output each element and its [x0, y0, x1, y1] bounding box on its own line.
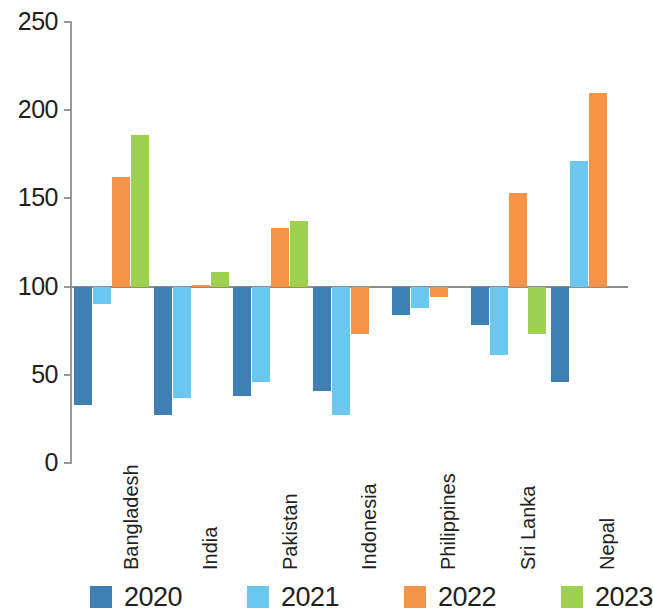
- bar: [173, 287, 191, 398]
- legend-label: 2021: [281, 584, 339, 611]
- bar: [313, 287, 331, 391]
- bar: [332, 287, 350, 416]
- bar: [411, 287, 429, 308]
- x-tick-label: Sri Lanka: [518, 486, 538, 571]
- bar: [290, 221, 308, 286]
- bar: [93, 287, 111, 305]
- bar: [490, 287, 508, 356]
- bar: [589, 93, 607, 287]
- bar: [131, 135, 149, 287]
- y-tick-label: 50: [0, 362, 58, 387]
- legend-item[interactable]: 2020: [90, 583, 182, 611]
- bar: [430, 287, 448, 298]
- y-tick-label: 150: [0, 185, 58, 210]
- bar: [112, 177, 130, 286]
- chart-legend: 2020202120222023: [90, 583, 630, 611]
- y-tick-label: 250: [0, 9, 58, 34]
- bar: [74, 287, 92, 405]
- bar: [392, 287, 410, 315]
- bar: [471, 287, 489, 326]
- y-tick-label: 200: [0, 97, 58, 122]
- bar: [570, 161, 588, 286]
- x-tick-label: Nepal: [597, 518, 617, 570]
- bar: [233, 287, 251, 396]
- x-tick-label: Indonesia: [359, 483, 379, 570]
- y-tick-label: 0: [0, 450, 58, 475]
- legend-item[interactable]: 2021: [247, 583, 339, 611]
- bar: [271, 228, 289, 286]
- bar: [192, 285, 210, 287]
- bar: [252, 287, 270, 382]
- bar: [211, 272, 229, 286]
- x-tick-label: Bangladesh: [121, 464, 141, 570]
- legend-item[interactable]: 2022: [404, 583, 496, 611]
- legend-label: 2023: [595, 584, 653, 611]
- y-tick-label: 100: [0, 274, 58, 299]
- x-tick-label: India: [200, 527, 220, 570]
- bar: [509, 193, 527, 286]
- bar: [528, 287, 546, 335]
- legend-item[interactable]: 2023: [561, 583, 653, 611]
- legend-swatch-icon: [404, 586, 426, 608]
- x-tick-label: Pakistan: [280, 493, 300, 570]
- legend-label: 2022: [438, 584, 496, 611]
- x-tick-label: Philippines: [438, 473, 458, 570]
- bar: [154, 287, 172, 416]
- bar: [351, 287, 369, 335]
- legend-swatch-icon: [247, 586, 269, 608]
- plot-area: [72, 22, 628, 463]
- bar: [551, 287, 569, 382]
- legend-swatch-icon: [90, 586, 112, 608]
- legend-label: 2020: [124, 584, 182, 611]
- legend-swatch-icon: [561, 586, 583, 608]
